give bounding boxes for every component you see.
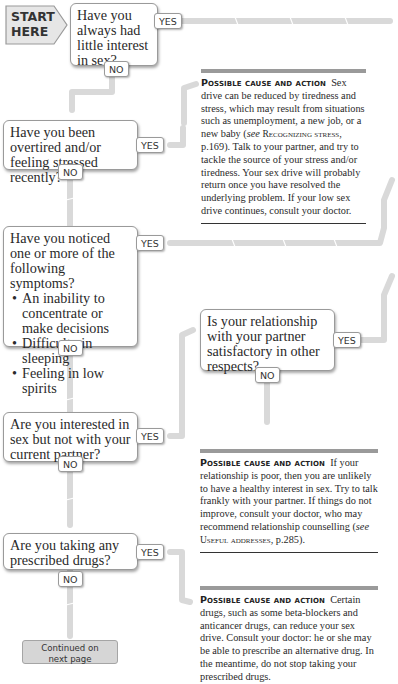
answer-bottom-rule bbox=[201, 223, 366, 224]
yes-label: YES bbox=[333, 332, 361, 348]
no-label: NO bbox=[104, 61, 129, 77]
see-reference: see bbox=[247, 128, 260, 139]
continued-line2: next page bbox=[23, 654, 117, 665]
cross-reference-link[interactable]: Useful addresses bbox=[200, 535, 271, 545]
answer-text: If your relationship is poor, then you a… bbox=[200, 457, 378, 532]
start-label-line1: START bbox=[11, 9, 55, 24]
answer-bottom-rule bbox=[200, 552, 378, 553]
question-text: Have you always had little interest in s… bbox=[77, 7, 148, 68]
answer-box-stress: Possible cause and action Sex drive can … bbox=[201, 69, 366, 224]
question-text: Are you taking any prescribed drugs? bbox=[10, 537, 119, 568]
question-box-symptoms: Have you noticed one or more of the foll… bbox=[3, 226, 138, 347]
start-here-marker: START HERE bbox=[4, 4, 66, 44]
question-box-always-little-interest: Have you always had little interest in s… bbox=[70, 3, 158, 66]
symptom-item: An inability to concentrate or make deci… bbox=[22, 291, 131, 336]
answer-top-rule bbox=[201, 69, 366, 73]
see-reference: see bbox=[356, 521, 369, 532]
answer-box-relationship: Possible cause and action If your relati… bbox=[200, 449, 378, 553]
yes-label: YES bbox=[136, 428, 164, 444]
answer-body: Possible cause and action Certain drugs,… bbox=[200, 594, 378, 684]
answer-text-continued: , p.169). Talk to your partner, and try … bbox=[201, 128, 360, 216]
no-label: NO bbox=[255, 367, 280, 383]
answer-box-prescribed-drugs: Possible cause and action Certain drugs,… bbox=[200, 586, 378, 684]
start-label-line2: HERE bbox=[11, 24, 55, 39]
cross-reference-link[interactable]: Recognizing stress bbox=[262, 129, 339, 139]
answer-text-continued: , p.285). bbox=[271, 534, 305, 545]
answer-body: Possible cause and action Sex drive can … bbox=[201, 77, 366, 218]
question-box-interested-not-partner: Are you interested in sex but not with y… bbox=[3, 412, 138, 462]
answer-heading: Possible cause and action bbox=[201, 77, 326, 88]
question-text: Is your relationship with your partner s… bbox=[207, 313, 320, 374]
yes-label: YES bbox=[136, 235, 164, 251]
no-label: NO bbox=[58, 164, 83, 180]
question-box-relationship-satisfactory: Is your relationship with your partner s… bbox=[200, 309, 335, 371]
answer-body: Possible cause and action If your relati… bbox=[200, 457, 378, 547]
answer-top-rule bbox=[200, 449, 378, 453]
answer-top-rule bbox=[200, 586, 378, 590]
question-box-prescribed-drugs: Are you taking any prescribed drugs? bbox=[3, 533, 138, 570]
answer-heading: Possible cause and action bbox=[200, 457, 325, 468]
answer-heading: Possible cause and action bbox=[200, 594, 325, 605]
continued-next-page-box[interactable]: Continued on next page bbox=[22, 640, 118, 664]
question-box-overtired-stressed: Have you been overtired and/or feeling s… bbox=[3, 120, 138, 170]
symptom-item: Feeling in low spirits bbox=[22, 366, 131, 396]
answer-text: Certain drugs, such as some beta-blocker… bbox=[200, 594, 374, 682]
yes-label: YES bbox=[136, 137, 164, 153]
continued-line1: Continued on bbox=[23, 643, 117, 654]
yes-label: YES bbox=[154, 13, 182, 29]
no-label: NO bbox=[58, 571, 83, 587]
no-label: NO bbox=[58, 456, 83, 472]
no-label: NO bbox=[58, 340, 83, 356]
yes-label: YES bbox=[136, 544, 164, 560]
question-text: Have you noticed one or more of the foll… bbox=[10, 230, 115, 291]
